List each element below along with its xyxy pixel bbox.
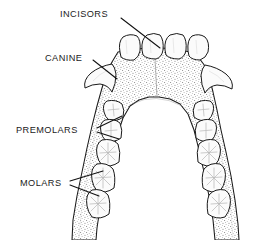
canine-tooth-right [201, 65, 232, 93]
canine-tooth-left [85, 64, 116, 92]
label-incisors: INCISORS [60, 9, 108, 19]
dental-arch-figure: INCISORS CANINE PREMOLARS MOLARS [0, 0, 268, 240]
label-molars: MOLARS [20, 178, 62, 188]
incisor-tooth-1 [119, 35, 140, 60]
incisor-tooth-2 [142, 34, 163, 60]
incisor-tooth-3 [165, 34, 186, 60]
incisor-tooth-4 [188, 35, 209, 60]
label-canine: CANINE [45, 53, 82, 63]
dental-arch-svg: INCISORS CANINE PREMOLARS MOLARS [0, 0, 268, 240]
label-premolars: PREMOLARS [16, 125, 78, 135]
